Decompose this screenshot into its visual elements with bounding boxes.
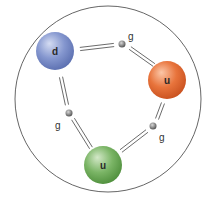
quark-label: u (100, 160, 106, 171)
bond-g-right-q-u-green (120, 130, 148, 153)
bond-line (74, 118, 92, 147)
gluon-label: g (55, 120, 61, 131)
bond-q-d-g-top (80, 43, 114, 50)
bond-line (120, 130, 146, 150)
quark-q-d: d (36, 32, 74, 70)
gluon-dot-icon (66, 110, 73, 117)
quark-label: d (52, 46, 58, 57)
gluon-bonds (59, 43, 164, 152)
bond-g-left-q-u-green (72, 118, 93, 149)
bond-line (72, 120, 90, 149)
gluon-label: g (128, 31, 134, 42)
bond-line (156, 102, 162, 118)
bond-line (158, 104, 164, 120)
bond-line (131, 47, 155, 64)
bond-q-d-g-left (59, 77, 68, 106)
gluon-g-top: g (119, 31, 134, 48)
gluon-dot-icon (119, 41, 126, 48)
bond-line (59, 77, 65, 105)
bond-g-top-q-u-orange (129, 47, 155, 67)
quark-q-u-green: u (84, 146, 122, 184)
bond-q-u-orange-g-right (156, 102, 165, 119)
gluon-g-right: g (150, 123, 165, 144)
quark-q-u-orange: u (148, 61, 186, 99)
proton-diagram: ggg duu (0, 0, 216, 201)
gluon-label: g (159, 132, 165, 143)
bond-line (122, 132, 148, 152)
gluon-g-left: g (55, 110, 73, 132)
gluon-dot-icon (150, 123, 157, 130)
bond-line (63, 77, 69, 105)
quark-label: u (164, 75, 170, 86)
quarks: duu (36, 32, 186, 184)
bond-line (129, 49, 153, 66)
